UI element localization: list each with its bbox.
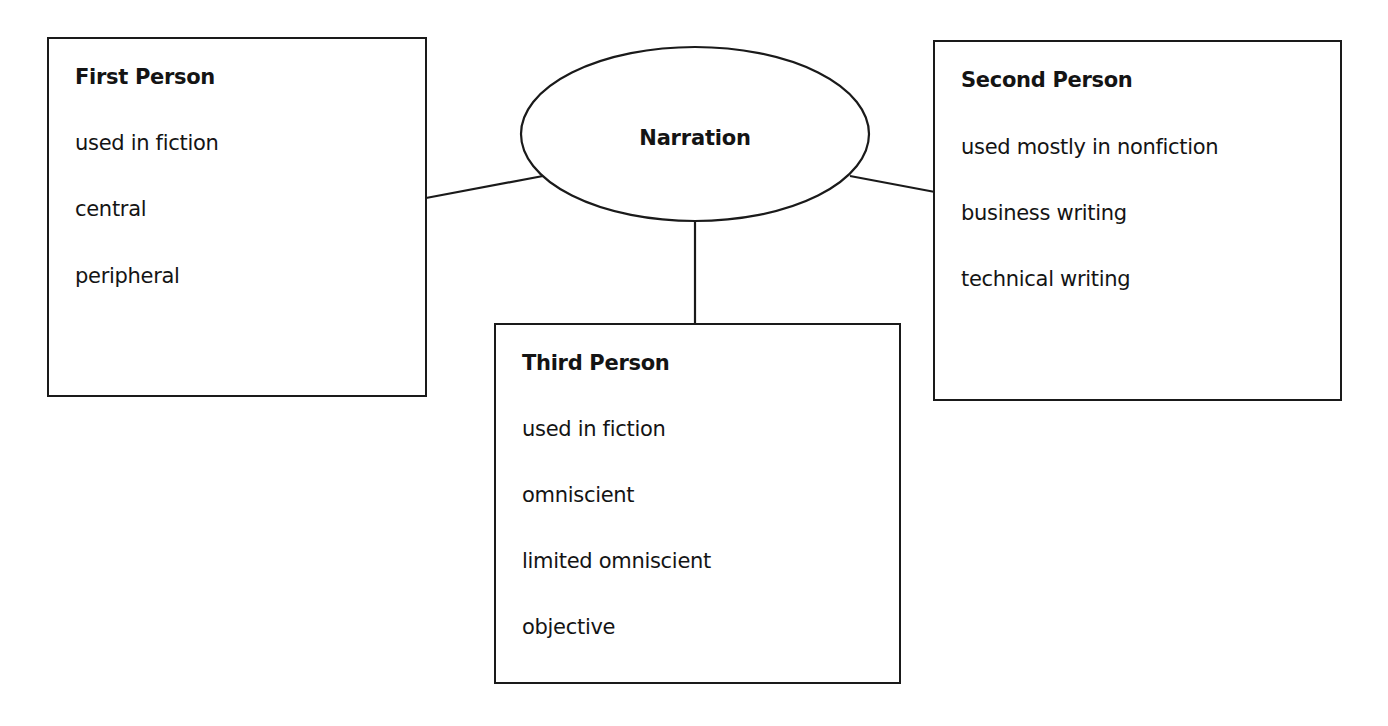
node-item: central — [75, 197, 146, 221]
node-first-person: First Person used in fiction central per… — [47, 37, 427, 397]
center-node-label: Narration — [595, 126, 795, 150]
node-item: used mostly in nonfiction — [961, 135, 1218, 159]
node-third-person: Third Person used in fiction omniscient … — [494, 323, 901, 684]
edge-narration-second-person — [850, 176, 935, 192]
node-item: peripheral — [75, 264, 180, 288]
node-item: technical writing — [961, 267, 1130, 291]
node-item: used in fiction — [75, 131, 219, 155]
node-item: limited omniscient — [522, 549, 711, 573]
node-title: First Person — [75, 65, 215, 89]
node-item: objective — [522, 615, 615, 639]
node-item: omniscient — [522, 483, 634, 507]
node-second-person: Second Person used mostly in nonfiction … — [933, 40, 1342, 401]
node-title: Second Person — [961, 68, 1133, 92]
node-title: Third Person — [522, 351, 669, 375]
node-item: used in fiction — [522, 417, 666, 441]
node-item: business writing — [961, 201, 1127, 225]
edge-narration-first-person — [426, 176, 543, 198]
